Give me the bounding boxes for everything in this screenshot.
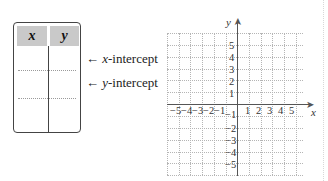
grid-line-horizontal: [167, 45, 303, 46]
table-header-x: x: [17, 26, 47, 46]
y-tick: −4: [225, 148, 236, 158]
y-axis: [237, 22, 238, 176]
y-tick: 5: [229, 41, 234, 51]
row-divider: [18, 98, 76, 99]
y-tick: −3: [225, 136, 236, 146]
table-header-y: y: [50, 26, 79, 46]
grid-line-horizontal: [167, 92, 303, 93]
y-axis-label: y: [226, 16, 231, 28]
x-tick: 1: [245, 106, 250, 116]
y-tick: −2: [225, 124, 236, 134]
y-axis-arrow-icon: ➤: [233, 18, 242, 26]
grid-line-horizontal: [167, 69, 303, 70]
y-tick: −1: [225, 110, 236, 120]
grid-line-horizontal: [167, 57, 303, 58]
y-tick: 1: [229, 89, 234, 99]
column-divider: [48, 46, 49, 132]
x-tick: 3: [267, 106, 272, 116]
x-tick: −5: [170, 106, 181, 116]
left-arrow-icon: ←: [86, 51, 99, 66]
x-tick: −1: [214, 106, 225, 116]
y-tick: 4: [229, 53, 234, 63]
y-tick: 3: [229, 65, 234, 75]
grid-line-horizontal: [167, 33, 303, 34]
y-tick: −5: [225, 160, 236, 170]
x-tick: −4: [181, 106, 192, 116]
x-tick: −2: [203, 106, 214, 116]
x-tick: −3: [192, 106, 203, 116]
y-tick: 2: [229, 77, 234, 87]
xy-value-table: x y: [13, 22, 81, 133]
grid-line-horizontal: [167, 175, 303, 176]
x-axis-label: x: [311, 106, 316, 118]
x-intercept-label: ← x-intercept: [86, 51, 158, 67]
grid-line-horizontal: [167, 80, 303, 81]
page-edge-divider: [323, 0, 324, 181]
left-arrow-icon: ←: [86, 75, 99, 90]
x-tick: 5: [289, 106, 294, 116]
row-divider: [18, 70, 76, 71]
x-tick: 2: [256, 106, 261, 116]
y-intercept-label: ← y-intercept: [86, 75, 158, 91]
x-tick: 4: [278, 106, 283, 116]
